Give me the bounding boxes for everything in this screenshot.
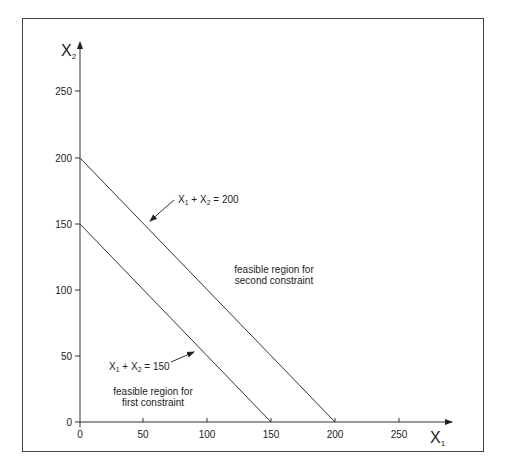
svg-text:second constraint: second constraint	[235, 275, 314, 286]
svg-text:250: 250	[55, 86, 72, 97]
svg-text:150: 150	[263, 429, 280, 440]
y-ticks	[75, 91, 80, 422]
x-tick-labels: 0 50 100 150 200 250	[77, 429, 408, 440]
annotation-eq-150: X1 + X2 = 150	[109, 361, 170, 373]
svg-text:feasible region for: feasible region for	[113, 386, 193, 397]
svg-text:100: 100	[55, 285, 72, 296]
constraint-line-200	[80, 158, 335, 422]
annotation-arrow-150	[171, 352, 194, 362]
svg-text:50: 50	[61, 351, 73, 362]
svg-text:50: 50	[137, 429, 149, 440]
svg-text:0: 0	[66, 417, 72, 428]
svg-text:0: 0	[77, 429, 83, 440]
svg-text:feasible region for: feasible region for	[234, 264, 314, 275]
svg-text:200: 200	[327, 429, 344, 440]
svg-text:250: 250	[391, 429, 408, 440]
annotation-arrow-200	[150, 200, 174, 221]
annotation-eq-200: X1 + X2 = 200	[178, 194, 239, 206]
svg-text:first constraint: first constraint	[122, 397, 184, 408]
svg-text:100: 100	[199, 429, 216, 440]
region-label-second-constraint: feasible region for second constraint	[234, 264, 314, 286]
svg-text:150: 150	[55, 219, 72, 230]
svg-text:200: 200	[55, 153, 72, 164]
region-label-first-constraint: feasible region for first constraint	[113, 386, 193, 408]
constraint-plot: 0 50 100 150 200 250 0 50 100 150 200 25…	[0, 0, 508, 474]
y-axis-label: X2	[61, 42, 77, 61]
y-tick-labels: 0 50 100 150 200 250	[55, 86, 72, 428]
x-axis-label: X1	[430, 429, 446, 448]
